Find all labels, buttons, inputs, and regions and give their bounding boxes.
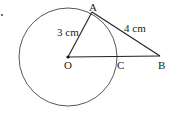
label-b: B	[158, 59, 165, 71]
label-o: O	[64, 59, 72, 71]
segment-ob	[68, 56, 160, 57]
label-c: C	[117, 59, 124, 71]
geometry-diagram: A 3 cm 4 cm O C B	[0, 0, 173, 114]
label-a: A	[89, 1, 97, 13]
tangent-ab	[92, 12, 160, 56]
label-ab-length: 4 cm	[124, 22, 146, 34]
label-oa-length: 3 cm	[57, 26, 79, 38]
stray-dot	[1, 14, 3, 16]
